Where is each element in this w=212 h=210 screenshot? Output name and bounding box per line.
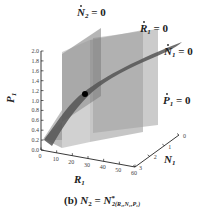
y-tick-label: 2 [154,154,157,160]
surface-label-r1: R1 = 0 [139,22,169,36]
y-tick-mark [148,155,150,157]
y-tick-label: 3 [139,165,142,171]
equilibrium-point [82,91,88,97]
derivative-dot [166,93,168,95]
z-tick-label: 0.2 [32,137,40,143]
x-tick-label: 40 [100,164,106,170]
x-tick-label: 60 [131,170,137,176]
x-tick-label: 20 [68,159,74,165]
z-tick-label: 1.6 [32,68,40,74]
y-ticks: 0123 [133,133,186,171]
x-axis-label: R1 [73,173,85,187]
z-axis-label: P1 [4,93,18,103]
y-tick-mark [177,134,179,136]
derivative-dot [143,21,145,23]
derivative-dot [167,44,169,46]
y-tick-mark [162,144,164,146]
surface-label-p1: P1 = 0 [163,94,191,108]
x-tick-label: 0 [39,153,42,159]
y-axis-label: N1 [163,153,175,167]
z-tick-label: 0.8 [32,107,40,113]
z-tick-label: 1.2 [32,88,40,94]
y-tick-label: 0 [183,133,186,139]
z-tick-label: 2.0 [32,48,40,54]
z-tick-label: 1.4 [32,78,40,84]
derivative-dot [80,5,82,7]
surface-label-n1: N1 = 0 [163,45,193,59]
nullcline-3d-plot: 0.00.20.40.60.81.01.21.41.61.82.0 010203… [0,0,212,210]
x-tick-label: 10 [53,156,59,162]
surfaces [42,28,182,148]
z-ticks: 0.00.20.40.60.81.01.21.41.61.82.0 [32,48,44,153]
x-tick-label: 30 [84,162,90,168]
z-tick-label: 0.6 [32,117,40,123]
x-tick-label: 50 [115,167,121,173]
z-tick-label: 1.0 [32,98,40,104]
z-tick-label: 0.4 [32,127,40,133]
y-tick-label: 1 [168,144,171,150]
surface-label-n2: N2 = 0 [76,6,106,20]
figure-caption: (b) N2 = N*2(R₁,N₁,P₁) [64,194,140,208]
z-tick-label: 1.8 [32,58,40,64]
